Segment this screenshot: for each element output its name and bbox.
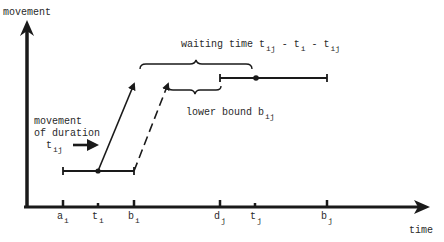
interval-j bbox=[220, 74, 327, 82]
movement-arrow-dashed bbox=[134, 84, 168, 171]
movement-note-line2: of duration bbox=[34, 129, 100, 139]
tick-label-t-j: tj bbox=[250, 212, 262, 222]
tick-label-a-i: ai bbox=[57, 212, 69, 222]
y-axis-label: movement bbox=[3, 8, 51, 18]
movement-arrow-solid bbox=[98, 84, 134, 171]
point-t-j bbox=[253, 75, 259, 81]
pointer-arrow-icon bbox=[73, 139, 99, 151]
tick-label-t-i: ti bbox=[92, 212, 104, 222]
x-axis-label: time bbox=[409, 226, 433, 236]
movement-note-duration: tij bbox=[46, 141, 63, 151]
x-axis bbox=[24, 200, 430, 214]
waiting-time-brace bbox=[140, 60, 252, 69]
tick-label-d-j: dj bbox=[214, 212, 226, 222]
waiting-time-label: waiting time tij - ti - tij bbox=[181, 40, 340, 50]
tick-label-b-i: bi bbox=[128, 212, 140, 222]
movement-note-line1: movement bbox=[34, 117, 82, 127]
lower-bound-brace bbox=[168, 86, 221, 94]
y-axis bbox=[20, 20, 34, 208]
tick-label-b-j: bj bbox=[321, 212, 333, 222]
lower-bound-label: lower bound bij bbox=[186, 108, 275, 118]
diagram-canvas: movement time ai ti bi dj tj bj waiting … bbox=[0, 0, 444, 242]
